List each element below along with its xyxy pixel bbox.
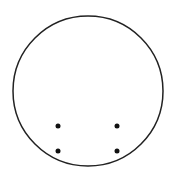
outer-circle: [13, 16, 163, 166]
dot: [115, 149, 120, 154]
dot: [115, 124, 120, 129]
dot: [56, 149, 61, 154]
diagram-canvas: [0, 0, 169, 178]
dot: [56, 124, 61, 129]
